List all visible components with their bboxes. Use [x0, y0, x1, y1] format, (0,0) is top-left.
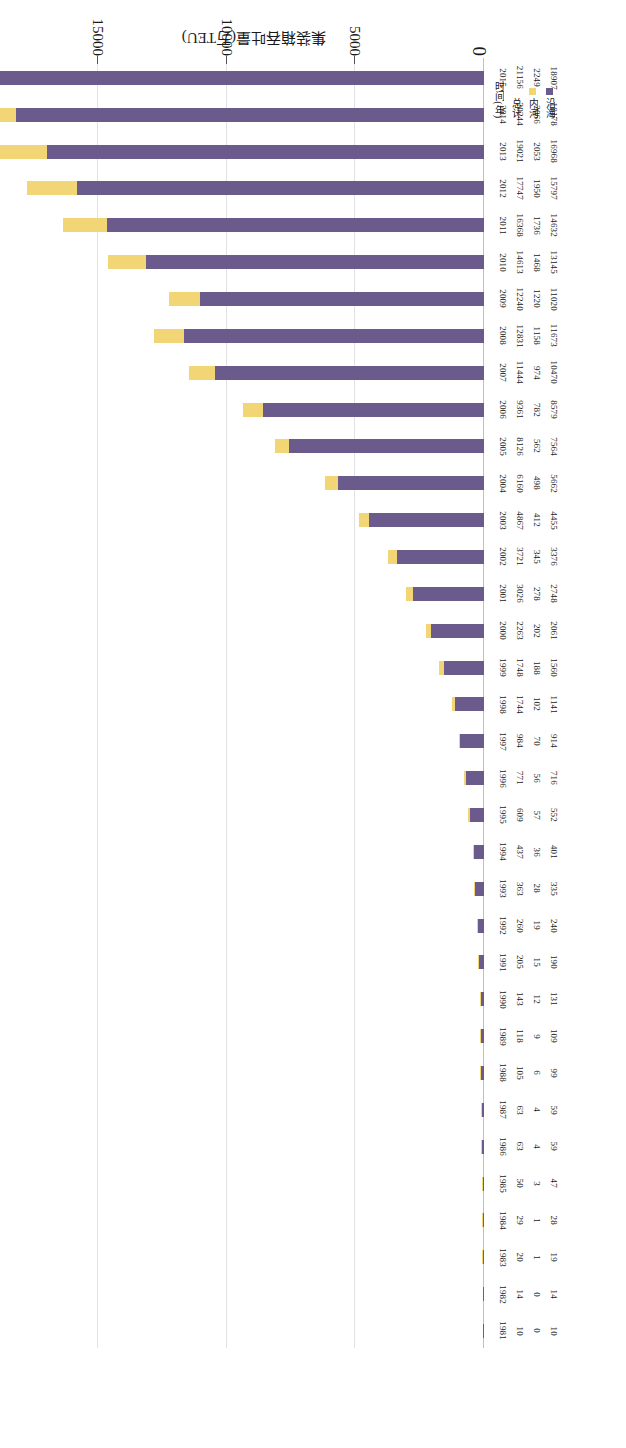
- bar-row: [48, 393, 484, 427]
- bar-row: [48, 356, 484, 390]
- coastal-value: 5662: [541, 474, 558, 493]
- coastal-value: 716: [541, 771, 558, 785]
- stacked-bar: [482, 1177, 484, 1191]
- bar-segment-inland: [325, 476, 338, 490]
- inland-value: 0: [524, 1329, 541, 1334]
- inland-value: 278: [524, 587, 541, 601]
- bar-segment-coastal: [338, 476, 484, 490]
- inland-value: 12: [524, 995, 541, 1004]
- row-label-group: 199336328335: [490, 872, 626, 906]
- bar-segment-inland: [275, 439, 289, 453]
- bar-segment-coastal: [263, 403, 484, 417]
- inland-value: 974: [524, 366, 541, 380]
- bar-segment-coastal: [397, 550, 484, 564]
- year-label: 1983: [490, 1248, 507, 1267]
- coastal-value: 401: [541, 845, 558, 859]
- bar-segment-inland: [459, 734, 461, 748]
- coastal-value: 14632: [541, 214, 558, 238]
- coastal-value: 335: [541, 882, 558, 896]
- stacked-bar: [0, 145, 484, 159]
- stacked-bar: [483, 1213, 484, 1227]
- year-label: 1989: [490, 1027, 507, 1046]
- row-label-group: 200812831115811673: [490, 319, 626, 353]
- year-label: 2005: [490, 437, 507, 456]
- row-label-group: 199798470914: [490, 724, 626, 758]
- coastal-value: 19: [541, 1253, 558, 1262]
- bar-segment-inland: [189, 366, 214, 380]
- row-label-group: 199014312131: [490, 982, 626, 1016]
- inland-value: 1220: [524, 290, 541, 309]
- bar-row: [48, 1277, 484, 1311]
- bar-row: [48, 872, 484, 906]
- bar-row: [48, 1314, 484, 1348]
- year-label: 2004: [490, 474, 507, 493]
- bar-segment-coastal: [460, 734, 484, 748]
- bar-segment-inland: [27, 181, 77, 195]
- coastal-value: 2061: [541, 621, 558, 640]
- year-label: 2011: [490, 216, 507, 234]
- row-label-group: 1988105699: [490, 1056, 626, 1090]
- stacked-bar: [0, 108, 484, 122]
- bar-row: [48, 945, 484, 979]
- coastal-value: 28: [541, 1216, 558, 1225]
- inland-value: 1468: [524, 253, 541, 272]
- bar-segment-inland: [479, 955, 480, 969]
- bar-segment-inland: [63, 218, 108, 232]
- bar-row: [48, 282, 484, 316]
- bar-segment-coastal: [475, 882, 484, 896]
- bar-row: [48, 614, 484, 648]
- bar-segment-inland: [480, 992, 481, 1006]
- bar-segment-coastal: [0, 71, 484, 85]
- year-label: 2008: [490, 326, 507, 345]
- value-axis-title: 集装箱吞吐量(万TEU): [182, 29, 326, 50]
- tick-mark-5000: [354, 56, 355, 64]
- bar-segment-inland: [481, 1066, 482, 1080]
- bar-segment-inland: [154, 329, 184, 343]
- year-label: 1996: [490, 769, 507, 788]
- inland-value: 782: [524, 403, 541, 417]
- bar-segment-inland: [388, 550, 397, 564]
- year-label: 2003: [490, 511, 507, 530]
- inland-value: 4: [524, 1108, 541, 1113]
- year-label: 1985: [490, 1174, 507, 1193]
- total-value: 63: [507, 1142, 524, 1151]
- total-value: 118: [507, 1029, 524, 1043]
- row-label-group: 199917481881560: [490, 651, 626, 685]
- bar-segment-inland: [426, 624, 431, 638]
- coastal-value: 1141: [541, 695, 558, 713]
- header-time: 时间(年): [490, 81, 507, 118]
- row-label-group: 199817441021141: [490, 687, 626, 721]
- tick-mark-10000: [226, 56, 227, 64]
- bar-segment-coastal: [146, 255, 484, 269]
- bar-segment-coastal: [478, 919, 484, 933]
- year-label: 1987: [490, 1100, 507, 1119]
- total-value: 19021: [507, 140, 524, 164]
- inland-value: 15: [524, 958, 541, 967]
- bar-segment-coastal: [474, 845, 484, 859]
- total-value: 2263: [507, 621, 524, 640]
- stacked-bar: [359, 513, 484, 527]
- bar-segment-coastal: [481, 992, 484, 1006]
- bar-segment-inland: [359, 513, 370, 527]
- bar-row: [48, 687, 484, 721]
- row-label-group: 19891189109: [490, 1019, 626, 1053]
- stacked-bar: [154, 329, 484, 343]
- coastal-value: 552: [541, 808, 558, 822]
- total-value: 20: [507, 1253, 524, 1262]
- total-value: 363: [507, 882, 524, 896]
- bar-row: [48, 1167, 484, 1201]
- inland-value: 4: [524, 1144, 541, 1149]
- year-label: 2012: [490, 179, 507, 198]
- year-label: 2001: [490, 584, 507, 603]
- coastal-value: 109: [541, 1029, 558, 1043]
- row-label-group: 200237213453376: [490, 540, 626, 574]
- row-label-group: 200130262782748: [490, 577, 626, 611]
- coastal-value: 914: [541, 734, 558, 748]
- stacked-bar: [479, 955, 484, 969]
- year-label: 2010: [490, 253, 507, 272]
- row-label-group: 201116368173614632: [490, 208, 626, 242]
- stacked-bar: [473, 845, 484, 859]
- bar-row: [48, 1019, 484, 1053]
- year-label: 1982: [490, 1285, 507, 1304]
- chart-figure: 1981100101982140141983201191984291281985…: [0, 0, 626, 1448]
